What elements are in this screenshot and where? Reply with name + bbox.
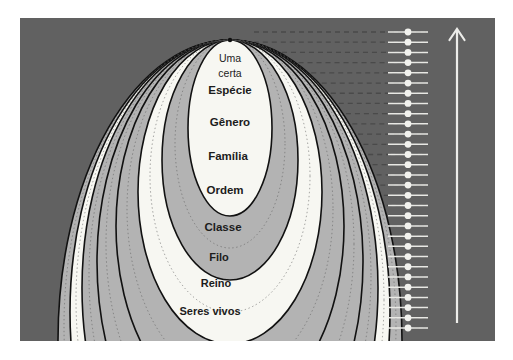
scale-dot xyxy=(405,243,412,250)
upward-arrow xyxy=(450,29,465,323)
scale-dot xyxy=(405,59,412,66)
scale-dot xyxy=(405,49,412,56)
scale-dot xyxy=(405,314,412,321)
scale-dot xyxy=(405,202,412,209)
scale-dot xyxy=(405,110,412,117)
scale-dot xyxy=(405,69,412,76)
scale-dot xyxy=(405,294,412,301)
diagram-panel: Uma certa Espécie Gênero Família Ordem C… xyxy=(20,18,495,341)
species-point-dot xyxy=(228,38,232,42)
nested-ellipse-bands xyxy=(58,40,402,341)
scale-dot xyxy=(405,131,412,138)
scale-dot xyxy=(405,274,412,281)
scale-dot xyxy=(405,233,412,240)
scale-dot xyxy=(405,100,412,107)
scale-dot xyxy=(405,284,412,291)
scale-dot xyxy=(405,39,412,46)
scale-dot xyxy=(405,263,412,270)
scale-dot xyxy=(405,223,412,230)
scale-dot xyxy=(405,253,412,260)
scale-dot xyxy=(405,80,412,87)
scale-dot xyxy=(405,29,412,36)
rank-ellipse xyxy=(188,40,272,216)
scale-dot xyxy=(405,325,412,332)
figure-root: Uma certa Espécie Gênero Família Ordem C… xyxy=(0,0,513,360)
scale-dot xyxy=(405,141,412,148)
scale-dot xyxy=(405,212,412,219)
scale-dot xyxy=(405,151,412,158)
scale-dot xyxy=(405,171,412,178)
scale-dot xyxy=(405,182,412,189)
scale-dot xyxy=(405,304,412,311)
ellipse-diagram-svg xyxy=(20,18,495,341)
scale-dot xyxy=(405,192,412,199)
scale-dot xyxy=(405,120,412,127)
scale-dot xyxy=(405,161,412,168)
scale-dot xyxy=(405,90,412,97)
